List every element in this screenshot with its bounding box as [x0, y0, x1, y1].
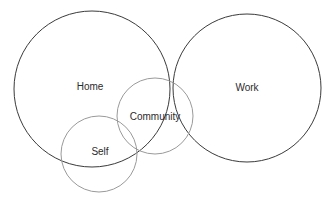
venn-diagram-svg: Home Work Community Self: [0, 0, 330, 205]
label-self: Self: [91, 146, 108, 157]
label-work: Work: [235, 82, 259, 93]
label-community: Community: [130, 111, 181, 122]
label-home: Home: [77, 81, 104, 92]
venn-diagram-canvas: Home Work Community Self: [0, 0, 330, 205]
